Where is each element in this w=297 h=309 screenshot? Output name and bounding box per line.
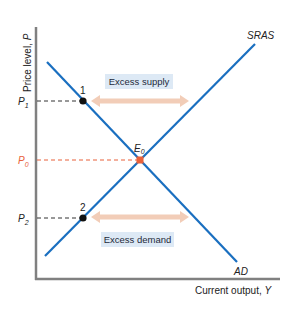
excess-demand-label: Excess demand	[101, 232, 174, 247]
y-axis-label: Price level, P	[22, 33, 33, 92]
ad-sras-chart: Price level, P Current output, Y P1 P0 P…	[0, 0, 297, 309]
equilibrium-marker	[137, 157, 144, 164]
ad-label: AD	[233, 266, 248, 277]
excess-supply-arrow	[91, 95, 189, 107]
point-1-label: 1	[80, 85, 86, 96]
excess-supply-label: Excess supply	[105, 74, 173, 89]
svg-text:Excess demand: Excess demand	[104, 234, 172, 245]
sras-label: SRAS	[247, 30, 275, 41]
point-2-marker	[79, 214, 86, 221]
e0-label: E0	[134, 143, 145, 155]
p1-label: P1	[18, 96, 29, 109]
excess-demand-arrow	[91, 211, 189, 223]
svg-text:Excess supply: Excess supply	[109, 76, 170, 87]
x-axis-label: Current output, Y	[195, 285, 272, 296]
point-1-marker	[79, 97, 86, 104]
point-2-label: 2	[80, 202, 86, 213]
p0-label: P0	[18, 155, 29, 168]
p2-label: P2	[18, 213, 29, 226]
